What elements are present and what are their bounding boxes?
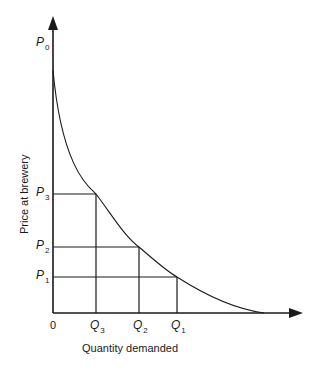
y-axis-title: Price at brewery (18, 155, 30, 234)
q3-main: Q (90, 318, 99, 332)
x-axis-title: Quantity demanded (82, 342, 178, 354)
p3-label: P3 (36, 186, 49, 200)
p3-main: P (36, 185, 44, 199)
q2-label: Q2 (133, 319, 148, 333)
q1-main: Q (171, 318, 180, 332)
q2-main: Q (133, 318, 142, 332)
q3-sub: 3 (100, 326, 104, 335)
q1-label: Q1 (171, 319, 186, 333)
q1-sub: 1 (181, 326, 185, 335)
p2-main: P (36, 238, 44, 252)
x-axis-arrow-icon (289, 308, 303, 318)
p2-sub: 2 (45, 246, 49, 255)
p1-label: P1 (36, 269, 49, 283)
q3-label: Q3 (90, 319, 105, 333)
origin-label: 0 (50, 319, 56, 331)
p2-label: P2 (36, 239, 49, 253)
p3-sub: 3 (45, 193, 49, 202)
p0-sub: 0 (45, 43, 49, 52)
p1-sub: 1 (45, 276, 49, 285)
p1-main: P (36, 268, 44, 282)
p0-main: P (36, 35, 44, 49)
p0-label: P0 (36, 36, 49, 50)
y-axis-arrow-icon (48, 16, 58, 30)
q2-sub: 2 (143, 326, 147, 335)
